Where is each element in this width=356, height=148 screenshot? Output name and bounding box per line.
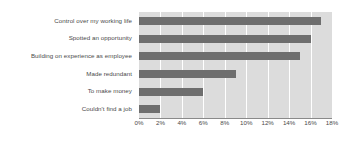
bar-row — [139, 100, 332, 118]
bar-spotted-an-opportunity — [139, 35, 311, 43]
category-label: Spotted an opportunity — [69, 35, 132, 41]
x-tick-label: 14% — [283, 120, 295, 126]
x-tick-label: 0% — [135, 120, 144, 126]
category-axis-labels: Control over my working life Spotted an … — [0, 12, 136, 118]
category-label-row: Couldn't find a job — [0, 100, 136, 118]
x-tick-label: 8% — [220, 120, 229, 126]
category-label-row: Control over my working life — [0, 12, 136, 30]
x-tick-label: 12% — [261, 120, 273, 126]
x-tick-label: 16% — [304, 120, 316, 126]
bar-row — [139, 30, 332, 48]
x-tick-label: 4% — [177, 120, 186, 126]
x-tick-label: 10% — [240, 120, 252, 126]
category-label: Made redundant — [86, 71, 132, 77]
category-label-row: Made redundant — [0, 65, 136, 83]
category-label-row: Spotted an opportunity — [0, 30, 136, 48]
bar-made-redundant — [139, 70, 236, 78]
bar-row — [139, 65, 332, 83]
x-tick-label: 18% — [326, 120, 338, 126]
category-label: Building on experience as employee — [31, 53, 132, 59]
bar-couldnt-find-a-job — [139, 105, 160, 113]
bar-control-over-my-working-life — [139, 17, 321, 25]
bars-group — [139, 12, 332, 118]
bar-chart: Control over my working life Spotted an … — [0, 0, 356, 148]
bar-row — [139, 47, 332, 65]
x-axis-tick-labels: 0%2%4%6%8%10%12%14%16%18% — [139, 120, 332, 134]
x-tick-label: 2% — [156, 120, 165, 126]
bar-row — [139, 12, 332, 30]
category-label-row: To make money — [0, 83, 136, 101]
bar-row — [139, 83, 332, 101]
category-label: Control over my working life — [54, 18, 132, 24]
category-label: To make money — [88, 88, 132, 94]
bar-building-on-experience-as-employee — [139, 52, 300, 60]
x-axis-line — [139, 118, 332, 119]
x-tick-label: 6% — [199, 120, 208, 126]
category-label: Couldn't find a job — [82, 106, 132, 112]
category-label-row: Building on experience as employee — [0, 47, 136, 65]
plot-area — [139, 12, 332, 118]
bar-to-make-money — [139, 88, 203, 96]
